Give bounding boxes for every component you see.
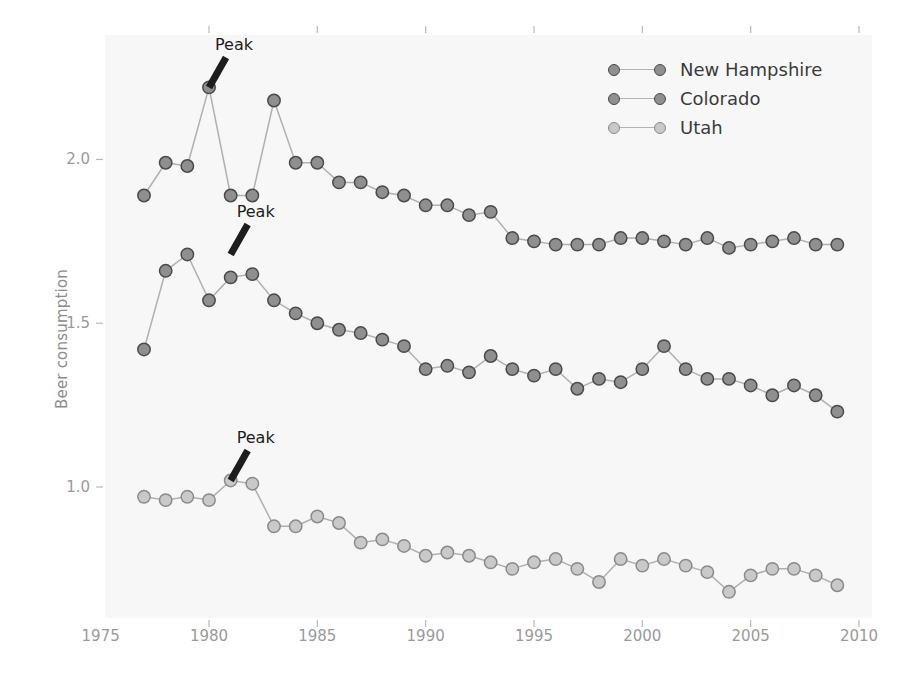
data-point-marker[interactable] bbox=[419, 199, 431, 211]
data-point-marker[interactable] bbox=[333, 324, 345, 336]
data-point-marker[interactable] bbox=[593, 238, 605, 250]
data-point-marker[interactable] bbox=[268, 94, 280, 106]
data-point-marker[interactable] bbox=[571, 563, 583, 575]
data-point-marker[interactable] bbox=[354, 536, 366, 548]
data-point-marker[interactable] bbox=[658, 235, 670, 247]
data-point-marker[interactable] bbox=[289, 157, 301, 169]
data-point-marker[interactable] bbox=[484, 556, 496, 568]
data-point-marker[interactable] bbox=[268, 294, 280, 306]
data-point-marker[interactable] bbox=[246, 478, 258, 490]
data-point-marker[interactable] bbox=[441, 546, 453, 558]
data-point-marker[interactable] bbox=[419, 363, 431, 375]
data-point-marker[interactable] bbox=[766, 235, 778, 247]
data-point-marker[interactable] bbox=[463, 209, 475, 221]
data-point-marker[interactable] bbox=[614, 553, 626, 565]
data-point-marker[interactable] bbox=[679, 238, 691, 250]
data-point-marker[interactable] bbox=[159, 157, 171, 169]
data-point-marker[interactable] bbox=[723, 373, 735, 385]
data-point-marker[interactable] bbox=[398, 540, 410, 552]
data-point-marker[interactable] bbox=[788, 232, 800, 244]
data-point-marker[interactable] bbox=[788, 379, 800, 391]
data-point-marker[interactable] bbox=[506, 232, 518, 244]
data-point-marker[interactable] bbox=[571, 238, 583, 250]
data-point-marker[interactable] bbox=[809, 238, 821, 250]
data-point-marker[interactable] bbox=[246, 189, 258, 201]
data-point-marker[interactable] bbox=[831, 405, 843, 417]
data-point-marker[interactable] bbox=[376, 186, 388, 198]
data-point-marker[interactable] bbox=[636, 363, 648, 375]
data-point-marker[interactable] bbox=[203, 294, 215, 306]
data-point-marker[interactable] bbox=[138, 189, 150, 201]
data-point-marker[interactable] bbox=[181, 491, 193, 503]
data-point-marker[interactable] bbox=[224, 189, 236, 201]
data-point-marker[interactable] bbox=[311, 510, 323, 522]
legend-item-new-hampshire[interactable]: New Hampshire bbox=[608, 55, 822, 84]
data-point-marker[interactable] bbox=[311, 317, 323, 329]
data-point-marker[interactable] bbox=[138, 343, 150, 355]
data-point-marker[interactable] bbox=[441, 199, 453, 211]
data-point-marker[interactable] bbox=[549, 363, 561, 375]
data-point-marker[interactable] bbox=[181, 160, 193, 172]
data-point-marker[interactable] bbox=[549, 553, 561, 565]
data-point-marker[interactable] bbox=[484, 206, 496, 218]
data-point-marker[interactable] bbox=[506, 363, 518, 375]
data-point-marker[interactable] bbox=[723, 242, 735, 254]
data-point-marker[interactable] bbox=[614, 232, 626, 244]
data-point-marker[interactable] bbox=[398, 189, 410, 201]
data-point-marker[interactable] bbox=[376, 333, 388, 345]
data-point-marker[interactable] bbox=[528, 235, 540, 247]
data-point-marker[interactable] bbox=[831, 579, 843, 591]
data-point-marker[interactable] bbox=[333, 176, 345, 188]
data-point-marker[interactable] bbox=[506, 563, 518, 575]
data-point-marker[interactable] bbox=[766, 389, 778, 401]
data-point-marker[interactable] bbox=[159, 494, 171, 506]
data-point-marker[interactable] bbox=[788, 563, 800, 575]
data-point-marker[interactable] bbox=[224, 271, 236, 283]
data-point-marker[interactable] bbox=[138, 491, 150, 503]
data-point-marker[interactable] bbox=[658, 553, 670, 565]
data-point-marker[interactable] bbox=[614, 376, 626, 388]
data-point-marker[interactable] bbox=[593, 373, 605, 385]
data-point-marker[interactable] bbox=[636, 559, 648, 571]
data-point-marker[interactable] bbox=[528, 556, 540, 568]
data-point-marker[interactable] bbox=[744, 379, 756, 391]
data-point-marker[interactable] bbox=[398, 340, 410, 352]
data-point-marker[interactable] bbox=[766, 563, 778, 575]
data-point-marker[interactable] bbox=[549, 238, 561, 250]
data-point-marker[interactable] bbox=[333, 517, 345, 529]
data-point-marker[interactable] bbox=[463, 550, 475, 562]
data-point-marker[interactable] bbox=[593, 576, 605, 588]
data-point-marker[interactable] bbox=[701, 232, 713, 244]
data-point-marker[interactable] bbox=[679, 363, 691, 375]
data-point-marker[interactable] bbox=[441, 360, 453, 372]
data-point-marker[interactable] bbox=[484, 350, 496, 362]
data-point-marker[interactable] bbox=[246, 268, 258, 280]
data-point-marker[interactable] bbox=[289, 307, 301, 319]
data-point-marker[interactable] bbox=[419, 550, 431, 562]
data-point-marker[interactable] bbox=[463, 366, 475, 378]
data-point-marker[interactable] bbox=[571, 383, 583, 395]
data-point-marker[interactable] bbox=[809, 389, 821, 401]
data-point-marker[interactable] bbox=[354, 327, 366, 339]
data-point-marker[interactable] bbox=[159, 265, 171, 277]
data-point-marker[interactable] bbox=[744, 238, 756, 250]
data-point-marker[interactable] bbox=[658, 340, 670, 352]
data-point-marker[interactable] bbox=[744, 569, 756, 581]
data-point-marker[interactable] bbox=[181, 248, 193, 260]
data-point-marker[interactable] bbox=[723, 586, 735, 598]
data-point-marker[interactable] bbox=[831, 238, 843, 250]
data-point-marker[interactable] bbox=[701, 373, 713, 385]
data-point-marker[interactable] bbox=[311, 157, 323, 169]
data-point-marker[interactable] bbox=[354, 176, 366, 188]
data-point-marker[interactable] bbox=[679, 559, 691, 571]
legend-item-utah[interactable]: Utah bbox=[608, 113, 822, 142]
data-point-marker[interactable] bbox=[528, 369, 540, 381]
data-point-marker[interactable] bbox=[701, 566, 713, 578]
data-point-marker[interactable] bbox=[289, 520, 301, 532]
legend-item-colorado[interactable]: Colorado bbox=[608, 84, 822, 113]
data-point-marker[interactable] bbox=[203, 494, 215, 506]
data-point-marker[interactable] bbox=[636, 232, 648, 244]
data-point-marker[interactable] bbox=[376, 533, 388, 545]
data-point-marker[interactable] bbox=[809, 569, 821, 581]
data-point-marker[interactable] bbox=[268, 520, 280, 532]
